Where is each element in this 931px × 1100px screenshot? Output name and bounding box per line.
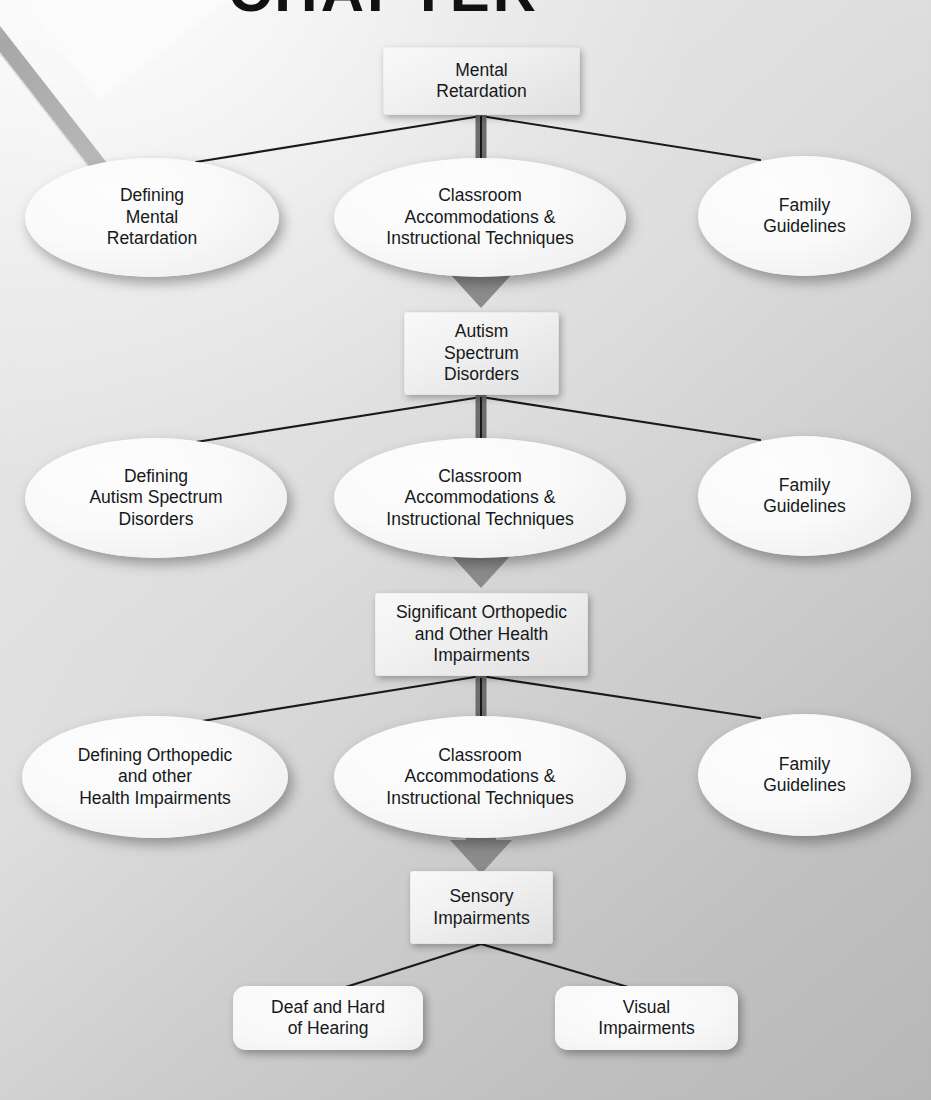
node-line: Defining [120, 185, 184, 206]
diagram-page: CHAPTER [0, 0, 931, 1100]
node-line: Classroom [438, 466, 522, 487]
node-visual-impairments[interactable]: Visual Impairments [555, 986, 738, 1050]
node-line: Family [779, 195, 831, 216]
node-defining-orthopedic-health[interactable]: Defining Orthopedic and other Health Imp… [22, 716, 288, 838]
node-line: Instructional Techniques [386, 788, 573, 809]
node-line: Impairments [433, 908, 529, 929]
node-line: Accommodations & [405, 766, 556, 787]
node-defining-autism-spectrum[interactable]: Defining Autism Spectrum Disorders [25, 438, 287, 558]
node-family-guidelines-2[interactable]: Family Guidelines [698, 436, 911, 556]
node-line: Sensory [449, 886, 513, 907]
node-line: Guidelines [763, 216, 846, 237]
node-line: Impairments [433, 645, 529, 666]
node-line: Disorders [444, 364, 519, 385]
page-corner-fold [0, 0, 336, 100]
node-line: Accommodations & [405, 207, 556, 228]
node-deaf-hard-of-hearing[interactable]: Deaf and Hard of Hearing [233, 986, 423, 1050]
node-family-guidelines-3[interactable]: Family Guidelines [698, 714, 911, 836]
node-line: Disorders [119, 509, 194, 530]
node-line: Family [779, 754, 831, 775]
node-line: Retardation [107, 228, 197, 249]
node-mental-retardation-header[interactable]: Mental Retardation [383, 47, 580, 115]
node-line: Deaf and Hard [271, 997, 385, 1018]
node-line: Health Impairments [79, 788, 231, 809]
node-line: and other [118, 766, 192, 787]
node-line: Accommodations & [405, 487, 556, 508]
node-line: and Other Health [415, 624, 548, 645]
node-line: Visual [623, 997, 670, 1018]
node-sensory-impairments-header[interactable]: Sensory Impairments [410, 871, 553, 944]
node-line: Retardation [436, 81, 526, 102]
node-line: Spectrum [444, 343, 519, 364]
node-line: Classroom [438, 185, 522, 206]
chapter-title-text: CHAPTER [228, 0, 539, 14]
node-orthopedic-health-header[interactable]: Significant Orthopedic and Other Health … [375, 593, 588, 676]
node-classroom-accommodations-2[interactable]: Classroom Accommodations & Instructional… [334, 438, 626, 558]
node-line: Family [779, 475, 831, 496]
node-line: Mental [455, 60, 508, 81]
node-line: Impairments [598, 1018, 694, 1039]
node-family-guidelines-1[interactable]: Family Guidelines [698, 156, 911, 276]
node-line: Defining Orthopedic [78, 745, 233, 766]
node-classroom-accommodations-1[interactable]: Classroom Accommodations & Instructional… [334, 158, 626, 277]
node-line: Instructional Techniques [386, 509, 573, 530]
node-line: Autism Spectrum [89, 487, 222, 508]
node-classroom-accommodations-3[interactable]: Classroom Accommodations & Instructional… [334, 716, 626, 838]
node-line: Instructional Techniques [386, 228, 573, 249]
node-defining-mental-retardation[interactable]: Defining Mental Retardation [25, 158, 279, 277]
node-line: of Hearing [288, 1018, 369, 1039]
node-autism-spectrum-header[interactable]: Autism Spectrum Disorders [404, 312, 559, 395]
node-line: Guidelines [763, 496, 846, 517]
node-line: Autism [455, 321, 508, 342]
node-line: Mental [126, 207, 179, 228]
node-line: Significant Orthopedic [396, 602, 567, 623]
node-line: Guidelines [763, 775, 846, 796]
node-line: Classroom [438, 745, 522, 766]
node-line: Defining [124, 466, 188, 487]
